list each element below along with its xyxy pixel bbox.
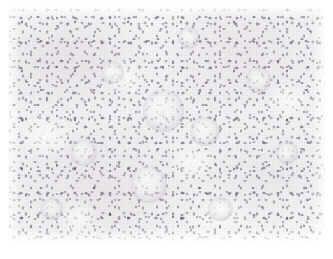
pale-cell-cluster [131, 166, 167, 202]
pale-cell-cluster [178, 27, 199, 48]
pale-cell-cluster [143, 90, 184, 131]
pale-cell-cluster [190, 117, 219, 145]
pale-cell-cluster [246, 67, 271, 93]
screenshot-viewport [0, 0, 333, 259]
pale-cell-cluster [276, 141, 298, 163]
pale-cell-cluster [208, 197, 233, 222]
micrograph-image [8, 7, 325, 242]
